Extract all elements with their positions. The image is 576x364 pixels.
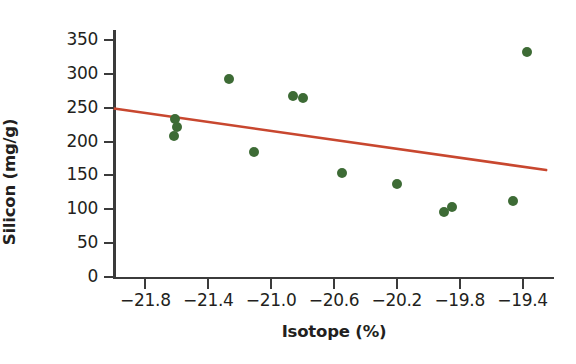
- x-tick-mark: [333, 279, 335, 289]
- y-tick-mark: [104, 141, 114, 143]
- y-tick-label: 350: [38, 31, 98, 48]
- y-tick-label: 200: [38, 133, 98, 150]
- y-tick-mark: [104, 107, 114, 109]
- data-point: [249, 147, 259, 157]
- x-tick-mark: [396, 279, 398, 289]
- y-tick-mark: [104, 276, 114, 278]
- x-tick-label: −21.8: [110, 292, 180, 309]
- x-tick-label: −20.6: [299, 292, 369, 309]
- x-tick-label: −19.8: [425, 292, 495, 309]
- x-tick-label: −19.4: [488, 292, 558, 309]
- y-tick-mark: [104, 73, 114, 75]
- data-point: [392, 179, 402, 189]
- data-point: [169, 131, 179, 141]
- y-tick-label: 50: [38, 234, 98, 251]
- x-tick-mark: [459, 279, 461, 289]
- x-tick-label: −21.0: [236, 292, 306, 309]
- x-tick-label: −20.2: [362, 292, 432, 309]
- y-tick-label: 100: [38, 200, 98, 217]
- x-tick-mark: [270, 279, 272, 289]
- data-point: [522, 47, 532, 57]
- data-point: [224, 74, 234, 84]
- y-tick-label: 250: [38, 99, 98, 116]
- y-tick-mark: [104, 39, 114, 41]
- data-point: [298, 93, 308, 103]
- x-tick-mark: [144, 279, 146, 289]
- x-axis-title: Isotope (%): [114, 322, 554, 341]
- y-tick-mark: [104, 242, 114, 244]
- scatter-chart: Silicon (mg/g) Isotope (%) 0501001502002…: [0, 0, 576, 364]
- y-tick-label: 150: [38, 166, 98, 183]
- x-tick-mark: [522, 279, 524, 289]
- x-tick-label: −21.4: [173, 292, 243, 309]
- data-point: [288, 91, 298, 101]
- x-tick-mark: [207, 279, 209, 289]
- y-tick-label: 0: [38, 268, 98, 285]
- y-tick-label: 300: [38, 65, 98, 82]
- y-tick-mark: [104, 208, 114, 210]
- y-tick-mark: [104, 174, 114, 176]
- data-point: [337, 168, 347, 178]
- data-point: [447, 202, 457, 212]
- data-point: [508, 196, 518, 206]
